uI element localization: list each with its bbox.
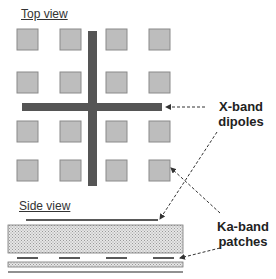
ka-band-label-line1: Ka-band [212, 219, 274, 234]
side-thin-substrate [8, 262, 183, 267]
x-band-label-line2: dipoles [210, 114, 272, 129]
x-band-label: X-band dipoles [210, 99, 272, 129]
x-band-dipole-horizontal [22, 103, 162, 111]
ka-band-label: Ka-band patches [212, 219, 274, 249]
ka-band-label-line2: patches [212, 234, 274, 249]
side-thick-substrate [8, 225, 183, 253]
x-band-label-line1: X-band [210, 99, 272, 114]
side-view-title: Side view [19, 199, 70, 213]
ka-band-arrow-side [180, 248, 220, 258]
